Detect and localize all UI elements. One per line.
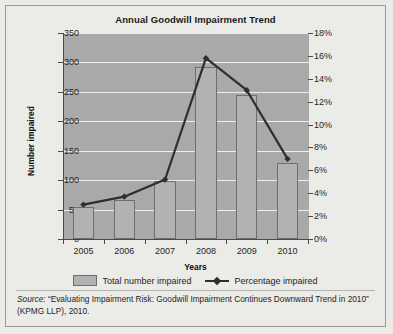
line-marker-2005 xyxy=(80,201,86,207)
y-tick-right xyxy=(308,193,313,194)
source-label: Source: xyxy=(17,294,46,304)
chart-figure: Annual Goodwill Impairment Trend Number … xyxy=(5,5,386,327)
x-tick xyxy=(186,239,187,244)
percentage-line-series xyxy=(63,33,308,239)
y-tick-right xyxy=(308,147,313,148)
legend-item-line: Percentage impaired xyxy=(205,276,317,286)
x-tick xyxy=(308,239,309,244)
y-tick-right xyxy=(308,79,313,80)
source-text: “Evaluating Impairment Risk: Goodwill Im… xyxy=(17,294,369,316)
y-tick-label-right: 0% xyxy=(314,234,354,244)
y-tick-label-right: 12% xyxy=(314,97,354,107)
bar-swatch-icon xyxy=(73,275,97,286)
legend-label-line: Percentage impaired xyxy=(234,276,317,286)
y-tick-label-right: 2% xyxy=(314,211,354,221)
x-tick xyxy=(145,239,146,244)
source-note: Source: “Evaluating Impairment Risk: Goo… xyxy=(17,294,375,317)
y-tick-right xyxy=(308,102,313,103)
y-tick-right xyxy=(308,170,313,171)
y-tick-label-right: 16% xyxy=(314,51,354,61)
line-diamond-icon xyxy=(205,276,229,285)
line-marker-2007 xyxy=(162,176,168,182)
x-tick-label: 2010 xyxy=(263,246,313,256)
legend-item-bars: Total number impaired xyxy=(73,275,191,286)
y-tick-label-right: 14% xyxy=(314,74,354,84)
x-axis-title: Years xyxy=(6,262,385,272)
y-tick-right xyxy=(308,216,313,217)
source-divider xyxy=(16,290,375,291)
x-tick xyxy=(63,239,64,244)
x-tick xyxy=(104,239,105,244)
chart-title: Annual Goodwill Impairment Trend xyxy=(6,14,385,25)
line-marker-2006 xyxy=(121,193,127,199)
y-tick-label-right: 4% xyxy=(314,188,354,198)
y-tick-label-right: 10% xyxy=(314,120,354,130)
x-tick xyxy=(226,239,227,244)
y-tick-label-right: 6% xyxy=(314,165,354,175)
y-tick-label-right: 18% xyxy=(314,28,354,38)
y-tick-right xyxy=(308,125,313,126)
legend-label-bars: Total number impaired xyxy=(102,276,191,286)
chart-legend: Total number impaired Percentage impaire… xyxy=(6,275,385,286)
percentage-line xyxy=(83,58,287,204)
y-axis-left-title: Number impaired xyxy=(26,81,36,201)
x-tick xyxy=(267,239,268,244)
y-tick-right xyxy=(308,33,313,34)
y-tick-right xyxy=(308,56,313,57)
y-tick-label-right: 8% xyxy=(314,142,354,152)
